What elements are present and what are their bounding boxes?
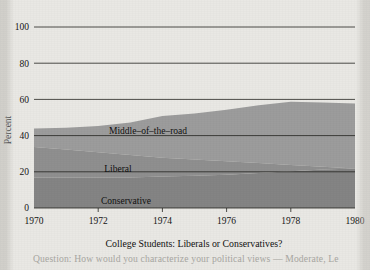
band-label-middle-of-the-road: Middle–of–the–road — [109, 126, 187, 136]
y-tick-label-80: 80 — [20, 59, 30, 69]
x-tick-label-1978: 1978 — [281, 216, 300, 226]
figure-title: College Students: Liberals or Conservati… — [106, 238, 283, 249]
y-tick-label-0: 0 — [24, 203, 29, 213]
x-tick-label-1980: 1980 — [346, 216, 365, 226]
x-tick-label-1976: 1976 — [217, 216, 236, 226]
cut-off-caption-text: Question: How would you characterize you… — [33, 254, 339, 264]
y-axis-tick-labels: 100 80 60 40 20 0 — [15, 22, 30, 213]
area-series-group — [34, 102, 355, 208]
band-label-conservative: Conservative — [101, 196, 151, 206]
x-tick-label-1974: 1974 — [153, 216, 172, 226]
x-axis-tick-labels: 1970 1972 1974 1976 1978 1980 — [25, 216, 365, 226]
chart-svg: 100 80 60 40 20 0 Percent 1970 1972 1974… — [0, 0, 370, 270]
y-tick-label-20: 20 — [20, 167, 30, 177]
figure-stacked-area-chart: 100 80 60 40 20 0 Percent 1970 1972 1974… — [0, 0, 370, 270]
band-label-liberal: Liberal — [104, 164, 132, 174]
y-axis-title: Percent — [3, 115, 13, 144]
x-tick-label-1970: 1970 — [25, 216, 44, 226]
y-tick-label-100: 100 — [15, 22, 30, 32]
cut-off-caption-strip: Question: How would you characterize you… — [0, 254, 370, 270]
x-tick-label-1972: 1972 — [89, 216, 108, 226]
y-tick-label-40: 40 — [20, 131, 30, 141]
x-axis-ticks-group — [98, 208, 291, 212]
y-tick-label-60: 60 — [20, 95, 30, 105]
